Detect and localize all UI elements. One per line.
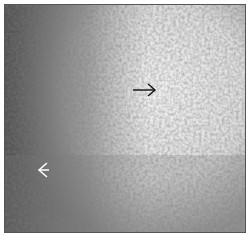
micrograph-frame [4,4,246,233]
micrograph-image [5,5,245,232]
